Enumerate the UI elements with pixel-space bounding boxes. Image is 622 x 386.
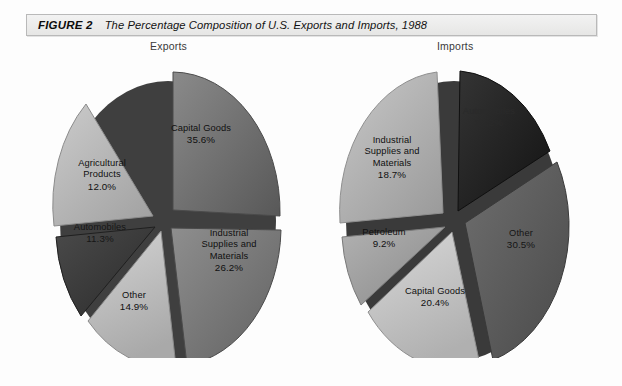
figure-number: FIGURE 2 [38,19,93,31]
slice-exports-capital-goods [173,72,280,216]
slice-imports-industrial [340,72,443,223]
slice-exports-industrial [171,228,281,358]
imports-heading: Imports [437,40,473,52]
imports-pie-svg [326,58,586,358]
imports-pie-chart: Automobiles 21.2% Industrial Supplies an… [326,58,586,362]
figure-title: The Percentage Composition of U.S. Expor… [105,19,428,31]
exports-pie-svg [36,58,296,358]
exports-pie-chart: Capital Goods 35.6% Agricultural Product… [36,58,296,362]
figure-caption-bar: FIGURE 2 The Percentage Composition of U… [26,14,597,36]
exports-heading: Exports [150,40,187,52]
